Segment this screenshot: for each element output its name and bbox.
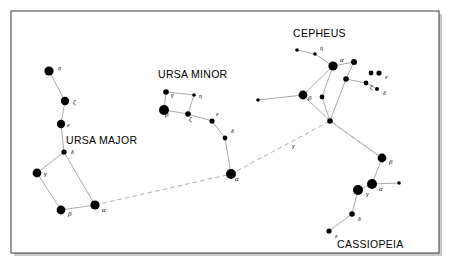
- star-cassiopeia-γ: [353, 185, 363, 195]
- star-cassiopeia: [397, 181, 401, 185]
- star-ursa-major-δ: [61, 149, 66, 154]
- star-chart: ηζεδγβαγβηζεδαηαβζεδγβαγδε URSA MAJORURS…: [0, 0, 450, 267]
- star-label-cas-beta: β: [388, 158, 393, 166]
- star-label-umi-epsilon: ε: [216, 110, 219, 118]
- star-cepheus: [351, 59, 357, 65]
- star-label-cep-beta: β: [307, 94, 312, 102]
- star-cepheus-β: [299, 91, 308, 100]
- star-ursa-major-β: [57, 206, 66, 215]
- star-label-cas-alpha: α: [379, 185, 383, 193]
- star-label-uma-delta: δ: [71, 149, 74, 155]
- star-label-uma-gamma: γ: [44, 170, 47, 178]
- star-cepheus: [320, 95, 325, 100]
- chart-frame: [11, 11, 439, 253]
- star-cepheus-η: [313, 52, 317, 56]
- star-label-uma-alpha: α: [102, 206, 106, 214]
- star-label-uma-epsilon: ε: [67, 121, 70, 129]
- star-cepheus-α: [328, 61, 337, 70]
- star-ursa-major-η: [44, 66, 53, 75]
- star-cepheus-ε: [376, 70, 381, 75]
- star-ursa-major-ζ: [61, 97, 69, 105]
- star-label-cep-delta: δ: [383, 90, 386, 96]
- star-ursa-minor-δ: [223, 136, 228, 141]
- star-cepheus-ζ: [364, 81, 369, 86]
- star-chart-canvas: ηζεδγβαγβηζεδαηαβζεδγβαγδε URSA MAJORURS…: [0, 0, 450, 267]
- star-cassiopeia-α: [367, 179, 377, 189]
- star-ursa-minor-ε: [209, 118, 214, 123]
- star-label-umi-delta: δ: [231, 128, 234, 134]
- star-label-umi-alpha: α: [235, 175, 239, 183]
- constellation-name-cepheus: CEPHEUS: [293, 27, 346, 39]
- star-label-cep-epsilon: ε: [385, 73, 388, 81]
- star-cassiopeia-β: [378, 154, 387, 163]
- star-ursa-major-ε: [57, 120, 65, 128]
- constellation-name-cassiopeia: CASSIOPEIA: [337, 238, 404, 250]
- star-cepheus-δ: [375, 87, 379, 91]
- star-cepheus: [369, 71, 374, 76]
- star-ursa-major-α: [90, 200, 99, 209]
- star-cepheus: [295, 48, 299, 52]
- star-label-uma-eta: η: [58, 65, 61, 71]
- star-ursa-minor-η: [192, 93, 196, 97]
- star-label-umi-beta: β: [164, 111, 169, 119]
- star-cepheus: [343, 76, 349, 82]
- star-cassiopeia-δ: [349, 211, 355, 217]
- star-label-uma-beta: β: [67, 210, 72, 218]
- constellation-name-ursa-minor: URSA MINOR: [158, 68, 228, 80]
- star-label-cep-gamma: γ: [292, 142, 295, 150]
- star-label-cas-delta: δ: [358, 216, 361, 222]
- star-ursa-minor-γ: [163, 89, 169, 95]
- star-label-cep-alpha: α: [340, 56, 344, 64]
- star-label-cep-eta: η: [320, 45, 323, 51]
- star-label-umi-eta: η: [199, 93, 202, 99]
- star-cepheus: [256, 98, 260, 102]
- star-label-cas-gamma: γ: [366, 190, 369, 198]
- star-label-umi-gamma: γ: [171, 91, 174, 99]
- star-cassiopeia-ε: [326, 228, 331, 233]
- star-ursa-major-γ: [33, 169, 42, 178]
- constellation-name-ursa-major: URSA MAJOR: [66, 134, 137, 146]
- star-cepheus-γ: [327, 118, 333, 124]
